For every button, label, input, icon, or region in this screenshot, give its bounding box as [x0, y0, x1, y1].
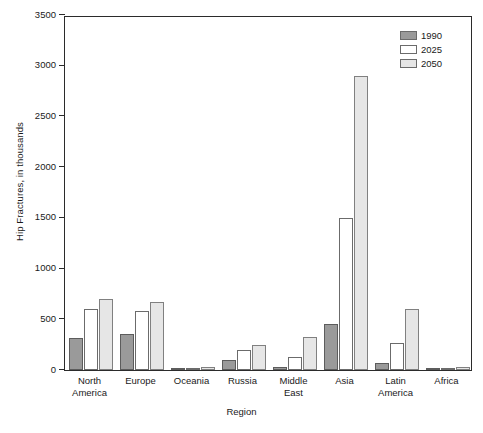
bar-latin-america-2050 — [405, 309, 419, 370]
bar-africa-2025 — [441, 368, 455, 370]
bar-middle-east-2025 — [288, 357, 302, 370]
bar-north-america-2050 — [99, 299, 113, 370]
bar-oceania-2025 — [186, 368, 200, 370]
bar-europe-2025 — [135, 311, 149, 370]
bar-africa-1990 — [426, 368, 440, 370]
legend-label-2025: 2025 — [421, 45, 442, 55]
bar-group — [167, 17, 218, 370]
y-tick-label: 1000 — [35, 262, 56, 273]
chart-legend: 199020252050 — [400, 29, 442, 71]
legend-item-1990: 1990 — [400, 29, 442, 42]
bar-group — [320, 17, 371, 370]
bar-russia-2050 — [252, 345, 266, 370]
bar-middle-east-2050 — [303, 337, 317, 370]
bar-middle-east-1990 — [273, 367, 287, 370]
legend-item-2050: 2050 — [400, 57, 442, 70]
bar-oceania-2050 — [201, 367, 215, 370]
bar-europe-1990 — [120, 334, 134, 371]
y-tick-label: 1500 — [35, 211, 56, 222]
bar-russia-1990 — [222, 360, 236, 370]
bar-asia-2025 — [339, 218, 353, 370]
x-axis-title: Region — [0, 406, 483, 417]
legend-label-1990: 1990 — [421, 31, 442, 41]
y-tick-label: 500 — [40, 313, 56, 324]
y-tick-mark — [59, 14, 65, 15]
legend-swatch-2025 — [400, 45, 417, 54]
bar-latin-america-2025 — [390, 343, 404, 370]
bar-group — [116, 17, 167, 370]
bar-north-america-1990 — [69, 338, 83, 370]
y-tick-label: 3000 — [35, 59, 56, 70]
bar-latin-america-1990 — [375, 363, 389, 370]
hip-fractures-bar-chart: Hip Fractures, in thousands 050010001500… — [0, 0, 483, 433]
bar-group — [269, 17, 320, 370]
y-tick-label: 2500 — [35, 110, 56, 121]
y-tick-label: 3500 — [35, 9, 56, 20]
bar-north-america-2025 — [84, 309, 98, 370]
legend-swatch-2050 — [400, 59, 417, 68]
bar-russia-2025 — [237, 350, 251, 370]
bar-africa-2050 — [456, 367, 470, 370]
y-tick-label: 0 — [51, 364, 56, 375]
bar-asia-1990 — [324, 324, 338, 370]
bar-group — [218, 17, 269, 370]
y-tick-label: 2000 — [35, 161, 56, 172]
bar-europe-2050 — [150, 302, 164, 370]
bar-asia-2050 — [354, 76, 368, 370]
legend-item-2025: 2025 — [400, 43, 442, 56]
x-tick-label: Africa — [402, 375, 483, 387]
legend-swatch-1990 — [400, 31, 417, 40]
bar-oceania-1990 — [171, 368, 185, 370]
y-axis-title: Hip Fractures, in thousands — [14, 92, 25, 272]
bar-group — [65, 17, 116, 370]
legend-label-2050: 2050 — [421, 59, 442, 69]
